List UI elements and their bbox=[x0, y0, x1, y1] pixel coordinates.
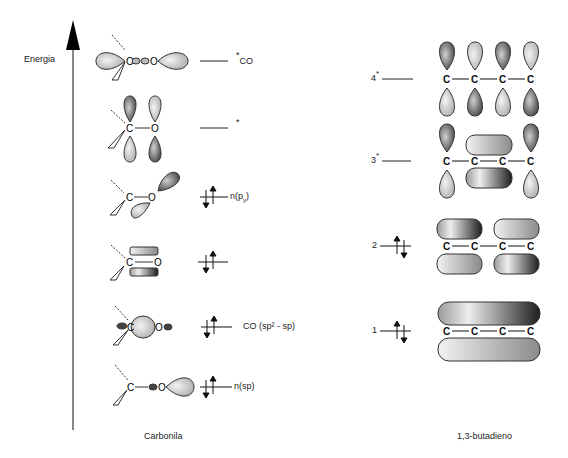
psi4-label: 4* bbox=[371, 73, 379, 83]
level-label-sigma-star: * bbox=[236, 117, 240, 127]
carbonyl-electron-levels bbox=[198, 186, 232, 398]
svg-text:C: C bbox=[499, 241, 506, 252]
svg-text:C: C bbox=[499, 156, 506, 167]
carbonyl-caption: Carbonila bbox=[144, 431, 183, 441]
butadiene-chains: CCCC CCCC CCCC CCCC bbox=[443, 74, 534, 337]
carbonyl-orbital-4: C O bbox=[110, 245, 162, 280]
level-label-sigma: CO (sp² - sp) bbox=[243, 321, 295, 331]
svg-text:O: O bbox=[158, 382, 166, 393]
svg-text:O: O bbox=[155, 322, 163, 333]
svg-text:C: C bbox=[443, 326, 450, 337]
svg-text:C: C bbox=[127, 382, 134, 393]
svg-text:C: C bbox=[443, 156, 450, 167]
carbonyl-orbital-3: C O bbox=[110, 172, 180, 218]
svg-text:C: C bbox=[126, 192, 133, 203]
svg-text:C: C bbox=[126, 56, 133, 67]
svg-text:C: C bbox=[471, 241, 478, 252]
svg-text:C: C bbox=[443, 241, 450, 252]
psi1-label: 1 bbox=[372, 325, 377, 335]
svg-text:O: O bbox=[150, 56, 158, 67]
svg-text:C: C bbox=[471, 74, 478, 85]
svg-text:C: C bbox=[499, 326, 506, 337]
energy-axis-label: Energia bbox=[24, 54, 55, 64]
level-label-n-sp: n(sp) bbox=[234, 381, 255, 391]
carbonyl-orbital-6: C O bbox=[113, 365, 194, 405]
svg-text:C: C bbox=[527, 156, 534, 167]
svg-text:C: C bbox=[471, 156, 478, 167]
svg-text:C: C bbox=[126, 123, 133, 134]
psi3-label: 3* bbox=[371, 155, 379, 165]
svg-text:O: O bbox=[154, 257, 162, 268]
svg-text:C: C bbox=[471, 326, 478, 337]
svg-text:C: C bbox=[527, 241, 534, 252]
butadiene-caption: 1,3-butadieno bbox=[457, 431, 512, 441]
svg-text:C: C bbox=[527, 74, 534, 85]
svg-text:C: C bbox=[126, 257, 133, 268]
svg-text:C: C bbox=[527, 326, 534, 337]
level-label-pi-star: *CO bbox=[236, 56, 253, 66]
svg-text:C: C bbox=[443, 74, 450, 85]
energy-axis bbox=[66, 20, 80, 430]
svg-text:O: O bbox=[148, 192, 156, 203]
carbonyl-orbital-1: C O bbox=[96, 35, 228, 80]
level-label-n-py: n(py) bbox=[230, 191, 249, 203]
arrow-up-icon bbox=[66, 20, 80, 50]
svg-text:O: O bbox=[151, 123, 159, 134]
psi2-label: 2 bbox=[372, 240, 377, 250]
carbonyl-orbital-5: C O bbox=[113, 306, 172, 345]
svg-text:C: C bbox=[127, 322, 134, 333]
carbonyl-orbital-2: C O bbox=[108, 96, 228, 162]
svg-text:C: C bbox=[499, 74, 506, 85]
mo-diagram: C O C O C O C O bbox=[0, 0, 568, 458]
